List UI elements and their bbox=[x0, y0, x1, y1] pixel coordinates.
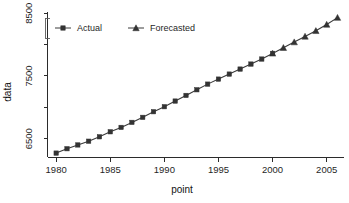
data-point-marker bbox=[162, 105, 166, 109]
data-point-marker bbox=[119, 125, 123, 129]
x-tick-label: 2005 bbox=[316, 164, 337, 175]
y-tick-label: 6500 bbox=[23, 128, 34, 149]
data-point-marker bbox=[173, 99, 177, 103]
x-tick-label: 1990 bbox=[154, 164, 175, 175]
y-tick-label: 7500 bbox=[23, 65, 34, 86]
data-point-marker bbox=[86, 139, 90, 143]
data-point-marker bbox=[184, 93, 188, 97]
y-tick-label: 8500 bbox=[23, 3, 34, 24]
data-point-marker bbox=[205, 82, 209, 86]
x-tick-label: 2000 bbox=[262, 164, 283, 175]
x-tick-label: 1985 bbox=[100, 164, 121, 175]
legend-label: Actual bbox=[77, 23, 102, 33]
data-point-marker bbox=[195, 88, 199, 92]
data-point-marker bbox=[238, 67, 242, 71]
legend-label: Forecasted bbox=[150, 23, 195, 33]
data-point-marker bbox=[260, 57, 264, 61]
data-point-marker bbox=[151, 110, 155, 114]
data-point-marker bbox=[97, 135, 101, 139]
data-point-marker bbox=[61, 26, 65, 30]
data-point-marker bbox=[249, 62, 253, 66]
data-point-marker bbox=[108, 130, 112, 134]
data-point-marker bbox=[130, 120, 134, 124]
x-tick-label: 1995 bbox=[208, 164, 229, 175]
data-point-marker bbox=[141, 115, 145, 119]
x-tick-label: 1980 bbox=[46, 164, 67, 175]
chart-canvas: 650075008500 data 1980198519901995200020… bbox=[0, 0, 349, 203]
data-point-marker bbox=[227, 72, 231, 76]
data-point-marker bbox=[216, 77, 220, 81]
data-point-marker bbox=[54, 151, 58, 155]
x-axis-title: point bbox=[171, 184, 193, 195]
chart-figure: 650075008500 data 1980198519901995200020… bbox=[0, 0, 349, 203]
data-point-marker bbox=[65, 147, 69, 151]
y-axis-title: data bbox=[2, 82, 13, 102]
data-point-marker bbox=[76, 143, 80, 147]
